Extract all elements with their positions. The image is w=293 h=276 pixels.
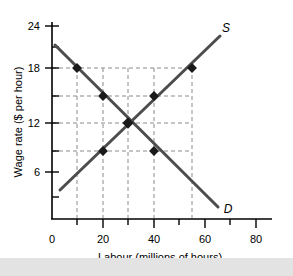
xtick-label-20: 20 [97,233,109,245]
chart-figure: 24 18 12 6 0 20 40 60 80 Wage rate ($ pe… [0,0,293,276]
ytick-label-24: 24 [28,20,40,32]
supply-point-40-15 [149,91,159,101]
xtick-label-40: 40 [148,233,160,245]
supply-curve-label: S [222,21,230,35]
supply-demand-chart: 24 18 12 6 0 20 40 60 80 Wage rate ($ pe… [0,0,293,276]
ytick-label-18: 18 [28,62,40,74]
demand-point-20-15 [98,91,108,101]
guide-lines [52,68,192,218]
supply-markers [98,63,197,156]
y-axis-title: Wage rate ($ per hour) [12,67,24,178]
xtick-label-80: 80 [250,233,262,245]
demand-curve-label: D [224,202,233,216]
xtick-label-60: 60 [199,233,211,245]
xtick-label-0: 0 [49,233,55,245]
supply-point-20-9 [98,146,108,156]
ytick-label-6: 6 [34,166,40,178]
x-axis-ticks [77,219,256,228]
ytick-label-12: 12 [28,117,40,129]
supply-curve [60,36,220,190]
footer-band [0,258,293,276]
axes [51,22,272,219]
